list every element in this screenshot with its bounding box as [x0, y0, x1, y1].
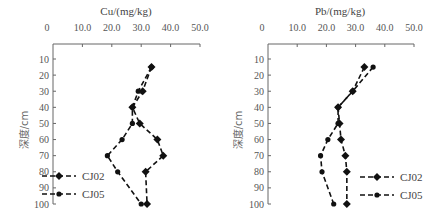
y-tick-label: 70	[39, 150, 49, 161]
y-tick-label: 20	[39, 70, 49, 81]
legend-label: CJ05	[400, 189, 423, 201]
data-point-cj05	[149, 64, 154, 69]
data-point-cj05	[350, 89, 355, 94]
x-tick-label: 20.0	[318, 22, 336, 33]
y-tick-label: 60	[39, 134, 49, 145]
data-point-cj02	[337, 136, 345, 144]
y-tick-label: 60	[254, 134, 264, 145]
data-point-cj05	[325, 137, 330, 142]
x-tick-label: 30.0	[347, 22, 365, 33]
y-axis-label: 深度/cm	[232, 111, 244, 150]
y-tick-label: 90	[254, 182, 264, 193]
pb-chart: Pb/(mg/kg)010.020.030.040.050.0102030405…	[232, 5, 423, 210]
legend-label: CJ05	[82, 188, 105, 200]
x-tick-label: 0	[260, 22, 265, 33]
y-tick-label: 30	[254, 86, 264, 97]
y-tick-label: 100	[34, 199, 49, 210]
data-point-cj05	[105, 153, 110, 158]
data-point-cj05	[331, 201, 336, 206]
data-point-cj05	[119, 137, 124, 142]
y-tick-label: 70	[254, 150, 264, 161]
y-tick-label: 10	[254, 54, 264, 65]
chart-title: Cu/(mg/kg)	[100, 5, 152, 18]
data-point-cj05	[335, 105, 340, 110]
x-tick-label: 40.0	[162, 22, 180, 33]
figure: Cu/(mg/kg)010.020.030.040.050.0102030405…	[0, 0, 436, 223]
y-tick-label: 40	[39, 102, 49, 113]
x-tick-label: 0	[45, 22, 50, 33]
y-tick-label: 10	[39, 54, 49, 65]
y-tick-label: 90	[39, 182, 49, 193]
y-axis-label: 深度/cm	[18, 111, 30, 150]
y-tick-label: 100	[249, 199, 264, 210]
data-point-cj05	[335, 121, 340, 126]
data-point-cj05	[139, 201, 144, 206]
y-tick-label: 20	[254, 70, 264, 81]
x-tick-label: 30.0	[132, 22, 150, 33]
legend-label: CJ02	[82, 170, 105, 182]
x-tick-label: 50.0	[191, 22, 209, 33]
series-line-cj05	[107, 67, 151, 204]
series-line-cj02	[132, 67, 163, 204]
legend-marker-cj02	[373, 173, 381, 181]
y-tick-label: 50	[39, 118, 49, 129]
x-tick-label: 20.0	[103, 22, 121, 33]
legend-item-cj02: CJ02	[42, 170, 105, 182]
data-point-cj05	[130, 121, 135, 126]
data-point-cj05	[319, 169, 324, 174]
x-tick-label: 10.0	[74, 22, 92, 33]
legend-item-cj05: CJ05	[360, 189, 423, 201]
data-point-cj02	[341, 152, 349, 160]
data-point-cj05	[130, 105, 135, 110]
series-line-cj05	[321, 67, 374, 204]
y-tick-label: 50	[254, 118, 264, 129]
cu-chart: Cu/(mg/kg)010.020.030.040.050.0102030405…	[18, 5, 209, 210]
data-point-cj02	[143, 200, 151, 208]
legend-marker-cj05	[56, 191, 61, 196]
data-point-cj05	[318, 153, 323, 158]
data-point-cj05	[136, 89, 141, 94]
x-tick-label: 10.0	[288, 22, 306, 33]
legend-item-cj02: CJ02	[360, 171, 423, 183]
chart-title: Pb/(mg/kg)	[315, 5, 365, 18]
legend-marker-cj05	[374, 192, 379, 197]
legend-marker-cj02	[55, 172, 63, 180]
y-tick-label: 40	[254, 102, 264, 113]
legend-label: CJ02	[400, 171, 423, 183]
y-tick-label: 30	[39, 86, 49, 97]
data-point-cj02	[360, 63, 368, 71]
x-tick-label: 50.0	[405, 22, 423, 33]
data-point-cj02	[343, 200, 351, 208]
data-point-cj05	[371, 64, 376, 69]
data-point-cj02	[343, 168, 351, 176]
y-tick-label: 80	[254, 166, 264, 177]
x-tick-label: 40.0	[376, 22, 394, 33]
data-point-cj05	[115, 169, 120, 174]
legend-item-cj05: CJ05	[42, 188, 105, 200]
series-line-cj02	[338, 67, 364, 204]
